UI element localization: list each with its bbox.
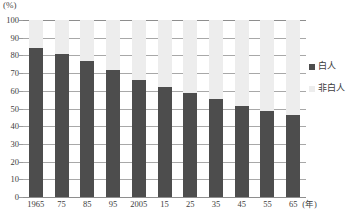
x-tick-label: 55 bbox=[263, 199, 272, 209]
legend: 白人 非白人 bbox=[309, 62, 353, 106]
bar-segment-white[interactable] bbox=[158, 87, 172, 197]
y-axis-unit-label: (%) bbox=[3, 1, 17, 10]
x-axis-unit-label: (年) bbox=[302, 199, 317, 209]
bar-segment-nonwhite[interactable] bbox=[260, 20, 274, 111]
bar-column[interactable] bbox=[29, 20, 43, 197]
bar-column[interactable] bbox=[55, 20, 69, 197]
x-tick-label: 85 bbox=[83, 199, 92, 209]
legend-swatch-icon bbox=[309, 86, 315, 92]
y-tick-label: 90 bbox=[11, 33, 20, 42]
x-tick-label: 45 bbox=[237, 199, 246, 209]
bar-segment-nonwhite[interactable] bbox=[29, 20, 43, 48]
bar-column[interactable] bbox=[80, 20, 94, 197]
bar-segment-white[interactable] bbox=[132, 80, 146, 197]
y-tick-label: 80 bbox=[11, 51, 20, 60]
bar-segment-nonwhite[interactable] bbox=[55, 20, 69, 54]
legend-label: 白人 bbox=[318, 62, 336, 71]
bar-column[interactable] bbox=[235, 20, 249, 197]
x-tick-label: 75 bbox=[57, 199, 66, 209]
bar-segment-nonwhite[interactable] bbox=[286, 20, 300, 115]
bar-group bbox=[23, 20, 306, 197]
bar-segment-white[interactable] bbox=[235, 106, 249, 197]
bar-column[interactable] bbox=[158, 20, 172, 197]
x-tick-label: 25 bbox=[186, 199, 195, 209]
y-tick-label: 30 bbox=[11, 140, 20, 149]
bar-segment-white[interactable] bbox=[286, 115, 300, 197]
chart-container: (%) 0102030405060708090100 1965758595200… bbox=[0, 0, 353, 219]
bar-segment-nonwhite[interactable] bbox=[106, 20, 120, 70]
x-tick-label: 15 bbox=[160, 199, 169, 209]
x-tick-label: 35 bbox=[212, 199, 221, 209]
bar-segment-white[interactable] bbox=[80, 61, 94, 197]
y-tick-label: 100 bbox=[6, 16, 19, 25]
bar-segment-white[interactable] bbox=[55, 54, 69, 197]
legend-item-nonwhite[interactable]: 非白人 bbox=[309, 84, 353, 93]
bar-column[interactable] bbox=[286, 20, 300, 197]
x-tick-label: 2005 bbox=[130, 199, 147, 209]
bar-column[interactable] bbox=[183, 20, 197, 197]
y-tick-label: 50 bbox=[11, 104, 20, 113]
y-tick-label: 70 bbox=[11, 69, 20, 78]
bar-segment-white[interactable] bbox=[260, 111, 274, 197]
x-tick-label: 1965 bbox=[27, 199, 44, 209]
x-axis-tick-labels: 19657585952005152535455565(年) bbox=[23, 199, 306, 215]
bar-segment-nonwhite[interactable] bbox=[158, 20, 172, 87]
y-tick-label: 40 bbox=[11, 122, 20, 131]
gridline bbox=[23, 197, 306, 198]
bar-segment-nonwhite[interactable] bbox=[209, 20, 223, 99]
plot-area bbox=[23, 20, 306, 197]
bar-segment-white[interactable] bbox=[183, 93, 197, 197]
bar-segment-nonwhite[interactable] bbox=[235, 20, 249, 106]
bar-column[interactable] bbox=[209, 20, 223, 197]
y-tick-label: 60 bbox=[11, 87, 20, 96]
bar-segment-white[interactable] bbox=[106, 70, 120, 197]
bar-column[interactable] bbox=[132, 20, 146, 197]
y-axis-tick-labels: 0102030405060708090100 bbox=[0, 20, 23, 197]
legend-swatch-icon bbox=[309, 64, 315, 70]
bar-column[interactable] bbox=[106, 20, 120, 197]
y-tick-label: 20 bbox=[11, 157, 20, 166]
bar-segment-white[interactable] bbox=[209, 99, 223, 197]
x-tick-label: 65 bbox=[289, 199, 298, 209]
bar-segment-white[interactable] bbox=[29, 48, 43, 197]
legend-label: 非白人 bbox=[318, 84, 345, 93]
bar-segment-nonwhite[interactable] bbox=[80, 20, 94, 61]
y-tick-label: 10 bbox=[11, 175, 20, 184]
bar-segment-nonwhite[interactable] bbox=[183, 20, 197, 93]
bar-segment-nonwhite[interactable] bbox=[132, 20, 146, 80]
legend-item-white[interactable]: 白人 bbox=[309, 62, 353, 71]
x-tick-label: 95 bbox=[109, 199, 118, 209]
bar-column[interactable] bbox=[260, 20, 274, 197]
